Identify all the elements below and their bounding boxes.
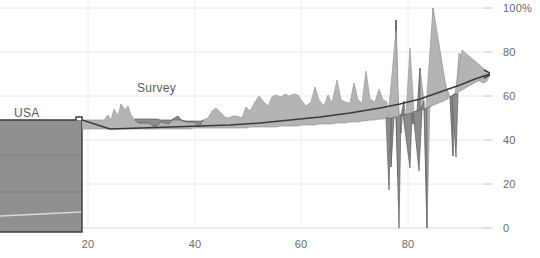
survey-series (82, 8, 492, 228)
y-axis-label-80: 80 (503, 46, 516, 58)
y-axis-label-20: 20 (503, 178, 516, 190)
spike-down-b (396, 115, 401, 228)
x-axis-label-60: 60 (289, 238, 313, 250)
y-axis-label-40: 40 (503, 134, 516, 146)
survey-positive-spikes (388, 8, 490, 118)
survey-positive-area (82, 8, 490, 228)
spike-down-a (386, 118, 391, 190)
x-axis-label-20: 20 (76, 238, 100, 250)
x-axis-label-80: 80 (396, 238, 420, 250)
usa-block (0, 117, 82, 232)
chart-plot-area (0, 0, 540, 258)
series-annotation-survey: Survey (137, 81, 176, 95)
series-annotation-usa: USA (14, 106, 40, 120)
y-axis-label-60: 60 (503, 90, 516, 102)
x-axis-label-40: 40 (183, 238, 207, 250)
chart-container: 100% 80 60 40 20 0 20 40 60 80 USA Surve… (0, 0, 540, 258)
y-axis-label-100: 100% (503, 2, 532, 14)
y-axis-ticks (484, 8, 493, 228)
spike-up-b (406, 48, 414, 114)
y-axis-label-0: 0 (503, 222, 509, 234)
